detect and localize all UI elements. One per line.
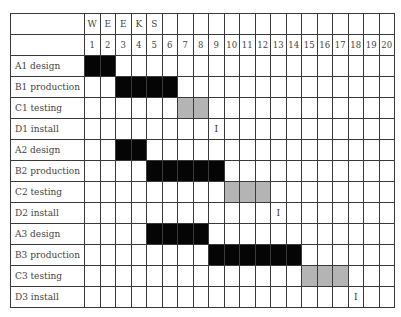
gantt-chart: WEEKS1234567891011121314151617181920A1 d… (10, 13, 395, 308)
gantt-bar-segment (224, 182, 240, 203)
grid-cell (348, 245, 364, 266)
grid-cell (162, 119, 178, 140)
grid-cell (255, 56, 271, 77)
grid-cell (85, 266, 101, 287)
task-label: C3 testing (11, 266, 85, 287)
grid-cell (131, 224, 147, 245)
header-letter-cell (193, 14, 209, 35)
task-row: C2 testing (11, 182, 395, 203)
grid-cell (255, 161, 271, 182)
grid-cell (302, 182, 318, 203)
grid-cell (302, 77, 318, 98)
grid-cell (178, 56, 194, 77)
grid-cell (209, 287, 225, 308)
grid-cell (147, 56, 163, 77)
grid-cell (286, 266, 302, 287)
grid-cell (209, 266, 225, 287)
header-letter-cell: E (116, 14, 132, 35)
grid-cell (379, 224, 395, 245)
gantt-bar-segment (147, 77, 163, 98)
grid-cell (131, 287, 147, 308)
grid-cell (240, 140, 256, 161)
header-letter-cell (317, 14, 333, 35)
grid-cell (317, 287, 333, 308)
header-corner-cell (11, 35, 85, 56)
grid-cell (131, 266, 147, 287)
week-tick-label: 13 (271, 35, 287, 56)
grid-cell (271, 56, 287, 77)
grid-cell (286, 98, 302, 119)
grid-cell (209, 224, 225, 245)
gantt-table: WEEKS1234567891011121314151617181920A1 d… (10, 13, 395, 308)
grid-cell (364, 287, 380, 308)
grid-cell (116, 161, 132, 182)
grid-cell (364, 161, 380, 182)
grid-cell (178, 245, 194, 266)
grid-cell (209, 98, 225, 119)
grid-cell (100, 203, 116, 224)
grid-cell (240, 203, 256, 224)
grid-cell (209, 77, 225, 98)
grid-cell (271, 98, 287, 119)
grid-cell (85, 77, 101, 98)
grid-cell (286, 203, 302, 224)
grid-cell (364, 77, 380, 98)
grid-cell (85, 182, 101, 203)
grid-cell (364, 203, 380, 224)
grid-cell (116, 287, 132, 308)
grid-cell (240, 98, 256, 119)
gantt-bar-segment (131, 140, 147, 161)
gantt-bar-segment (178, 224, 194, 245)
task-row: C1 testing (11, 98, 395, 119)
grid-cell (224, 98, 240, 119)
grid-cell (364, 182, 380, 203)
grid-cell (147, 98, 163, 119)
grid-cell (364, 224, 380, 245)
grid-cell (317, 56, 333, 77)
gantt-bar-segment (116, 77, 132, 98)
task-label: A2 design (11, 140, 85, 161)
week-tick-label: 5 (147, 35, 163, 56)
grid-cell (224, 77, 240, 98)
grid-cell (333, 245, 349, 266)
grid-cell (178, 77, 194, 98)
header-letter-cell: E (100, 14, 116, 35)
grid-cell (286, 56, 302, 77)
week-tick-label: 15 (302, 35, 318, 56)
week-tick-label: 4 (131, 35, 147, 56)
grid-cell (193, 77, 209, 98)
grid-cell (100, 245, 116, 266)
task-row: B3 production (11, 245, 395, 266)
grid-cell (178, 266, 194, 287)
grid-cell (364, 56, 380, 77)
task-row: C3 testing (11, 266, 395, 287)
grid-cell (255, 77, 271, 98)
task-label: C2 testing (11, 182, 85, 203)
gantt-bar-segment (209, 245, 225, 266)
task-label: B1 production (11, 77, 85, 98)
grid-cell (193, 245, 209, 266)
grid-cell (364, 119, 380, 140)
task-label: B3 production (11, 245, 85, 266)
grid-cell (162, 203, 178, 224)
grid-cell (333, 119, 349, 140)
gantt-bar-segment (85, 56, 101, 77)
grid-cell (193, 182, 209, 203)
grid-cell (100, 161, 116, 182)
grid-cell (162, 287, 178, 308)
grid-cell (116, 266, 132, 287)
grid-cell (240, 287, 256, 308)
gantt-bar-segment (302, 266, 318, 287)
grid-cell (100, 266, 116, 287)
grid-cell (364, 245, 380, 266)
grid-cell (286, 140, 302, 161)
grid-cell (348, 266, 364, 287)
grid-cell (131, 245, 147, 266)
task-label: D3 install (11, 287, 85, 308)
header-letter-cell (255, 14, 271, 35)
gantt-bar-segment (116, 140, 132, 161)
grid-cell (348, 56, 364, 77)
header-letter-cell (286, 14, 302, 35)
grid-cell (147, 203, 163, 224)
grid-cell (131, 203, 147, 224)
